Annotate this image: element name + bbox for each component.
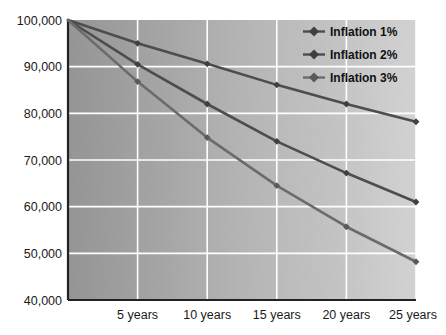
x-tick-label: 15 years [253,308,301,322]
y-tick-label: 90,000 [24,60,62,74]
legend-label: Inflation 2% [330,48,398,62]
legend-label: Inflation 1% [330,25,398,39]
chart-canvas: 100,000 90,000 80,000 70,000 60,000 50,0… [0,0,446,335]
y-tick-label: 60,000 [24,200,62,214]
y-tick-label: 50,000 [24,247,62,261]
y-tick-label: 40,000 [24,294,62,308]
x-tick-label: 10 years [183,308,231,322]
x-tick-label: 5 years [117,308,158,322]
x-tick-label: 25 years [389,308,437,322]
x-tick-label: 20 years [322,308,370,322]
y-tick-label: 100,000 [17,14,62,28]
y-tick-label: 80,000 [24,107,62,121]
y-tick-label: 70,000 [24,154,62,168]
line-chart: 100,000 90,000 80,000 70,000 60,000 50,0… [0,0,446,335]
legend-label: Inflation 3% [330,71,398,85]
